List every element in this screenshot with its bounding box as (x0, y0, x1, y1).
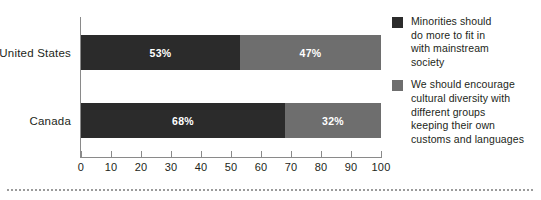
x-axis-tick-label: 40 (186, 161, 216, 173)
x-axis-tick (111, 151, 112, 158)
x-axis-tick-label: 20 (126, 161, 156, 173)
legend-swatch (392, 17, 403, 28)
stacked-bar-chart: United States53%47%Canada68%32% 01020304… (0, 0, 541, 200)
bar-segment: 68% (81, 103, 285, 138)
legend-item: Minorities shoulddo more to fit inwith m… (392, 15, 538, 69)
legend-swatch (392, 80, 403, 91)
bar-segment: 47% (240, 35, 381, 70)
plot-area: United States53%47%Canada68%32% (81, 17, 381, 158)
x-axis-tick (321, 151, 322, 158)
x-axis-tick-label: 50 (216, 161, 246, 173)
legend-item: We should encouragecultural diversity wi… (392, 78, 538, 146)
x-axis-tick-label: 90 (336, 161, 366, 173)
x-axis-tick (141, 151, 142, 158)
x-axis-tick-label: 60 (246, 161, 276, 173)
chart-legend: Minorities shoulddo more to fit inwith m… (392, 15, 538, 155)
bar-group: Canada68%32% (81, 103, 381, 138)
category-label-text: Canada (30, 115, 71, 127)
x-axis-tick (171, 151, 172, 158)
x-axis-tick-label: 100 (366, 161, 396, 173)
x-axis-tick-label: 0 (66, 161, 96, 173)
x-axis-tick (261, 151, 262, 158)
x-axis-tick (201, 151, 202, 158)
x-axis-tick-label: 80 (306, 161, 336, 173)
legend-label: We should encouragecultural diversity wi… (411, 78, 524, 146)
x-axis-tick-label: 30 (156, 161, 186, 173)
legend-label: Minorities shoulddo more to fit inwith m… (411, 15, 492, 69)
x-axis-tick (351, 151, 352, 158)
x-axis-tick (291, 151, 292, 158)
x-axis-tick-label: 70 (276, 161, 306, 173)
category-label-text: United States (0, 47, 71, 59)
x-axis-tick (381, 151, 382, 158)
bar-group: United States53%47% (81, 35, 381, 70)
x-axis-tick-label: 10 (96, 161, 126, 173)
bar-segment: 32% (285, 103, 381, 138)
x-axis-tick (231, 151, 232, 158)
bar-segment: 53% (81, 35, 240, 70)
x-axis-tick (81, 151, 82, 158)
bottom-dotted-divider (6, 189, 535, 191)
